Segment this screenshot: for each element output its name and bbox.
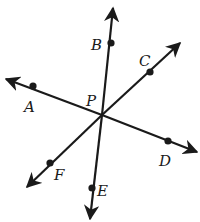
point-f-dot [46,159,53,166]
point-label-b: B [90,36,102,54]
labels-group: BCADFE [22,36,171,200]
ray-pb [102,8,113,115]
ray-pf [27,115,102,187]
ray-pd [102,115,197,152]
point-label-a: A [22,98,35,116]
point-a-dot [29,82,36,89]
point-label-p: P [85,92,97,110]
intersecting-lines-diagram: BCADFE P [0,0,200,222]
point-d-dot [164,137,171,144]
point-label-d: D [158,152,171,170]
point-label-c: C [139,52,151,70]
point-b-dot [107,39,114,46]
point-label-e: E [96,182,108,200]
point-e-dot [88,184,95,191]
ray-pe [90,115,102,219]
point-label-f: F [53,166,65,184]
